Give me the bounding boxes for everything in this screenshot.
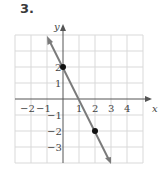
axes [15, 27, 150, 163]
point-0-2 [60, 64, 66, 70]
y-tick-label: −3 [47, 142, 62, 153]
x-tick-label: −2 [20, 103, 35, 114]
y-axis-label: y [53, 21, 60, 32]
y-tick-label: −2 [47, 126, 62, 137]
y-tick-label: −1 [47, 110, 62, 121]
x-axis-label: x [152, 103, 158, 114]
x-axis-arrow-icon [145, 96, 152, 102]
point-2-neg2 [92, 128, 98, 134]
x-tick-label: 3 [108, 103, 114, 114]
x-tick-label: 4 [124, 103, 130, 114]
coordinate-plane: x y −2 −1 1 2 3 4 2 1 −1 −2 −3 [0, 0, 168, 175]
y-tick-label: 1 [55, 78, 61, 89]
x-tick-label: 2 [92, 103, 98, 114]
y-axis-arrow-icon [60, 24, 66, 31]
